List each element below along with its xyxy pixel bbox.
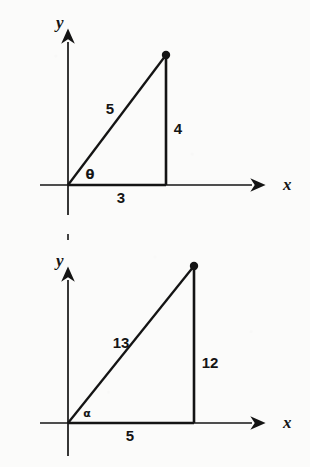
base-leg-length-label: 3	[117, 189, 125, 206]
x-axis-label: x	[282, 413, 292, 432]
figure-right-triangle-5-12-13: y x 13 12 5 α	[0, 234, 310, 467]
angle-alpha-label: α	[83, 407, 91, 420]
vertical-leg-length-label: 12	[202, 354, 219, 371]
apex-point-marker	[190, 262, 198, 270]
base-leg-length-label: 5	[126, 427, 134, 444]
vertical-leg-length-label: 4	[174, 120, 183, 137]
angle-theta-label: θ	[86, 167, 95, 182]
y-axis-label: y	[54, 13, 64, 32]
diagram-page: y x 5 4 3 θ y	[0, 0, 310, 467]
hypotenuse-length-label: 13	[113, 334, 130, 351]
triangle-theta-canvas: y x 5 4 3 θ	[0, 0, 310, 230]
triangle-hypotenuse	[68, 266, 194, 423]
hypotenuse-length-label: 5	[106, 100, 114, 117]
y-axis-label: y	[54, 251, 64, 270]
figure-right-triangle-3-4-5: y x 5 4 3 θ	[0, 0, 310, 230]
triangle-alpha-canvas: y x 13 12 5 α	[0, 234, 310, 467]
triangle-hypotenuse	[68, 55, 166, 185]
apex-point-marker	[162, 51, 170, 59]
x-axis-label: x	[282, 175, 292, 194]
